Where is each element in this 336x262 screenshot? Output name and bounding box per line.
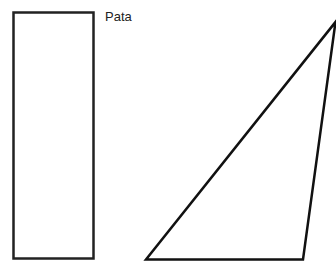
triangle-shape bbox=[146, 22, 336, 260]
rectangle-shape bbox=[14, 13, 94, 259]
rectangle-label: Pata bbox=[105, 10, 132, 23]
diagram-canvas bbox=[0, 0, 336, 262]
